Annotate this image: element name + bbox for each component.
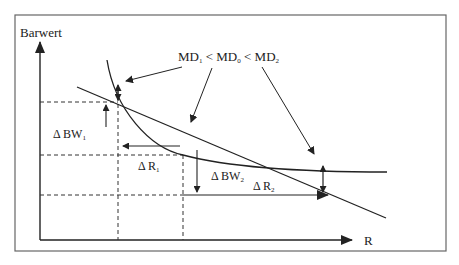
delta-bw1-label: Δ BW1 <box>53 127 86 142</box>
x-axis-label: R <box>364 233 373 248</box>
duration-tangent-line <box>77 87 386 218</box>
delta-bw2-label: Δ BW2 <box>211 169 244 184</box>
delta-r2-label: Δ R2 <box>253 179 275 194</box>
duration-convexity-diagram: Barwert R MD1 < MD0 < MD2 Δ BW1 Δ R1 Δ B… <box>0 0 459 265</box>
y-axis-label: Barwert <box>20 25 62 40</box>
dashed-guides <box>40 90 183 240</box>
delta-r1-label: Δ R1 <box>138 159 160 174</box>
md-relation-label: MD1 < MD0 < MD2 <box>178 49 280 65</box>
